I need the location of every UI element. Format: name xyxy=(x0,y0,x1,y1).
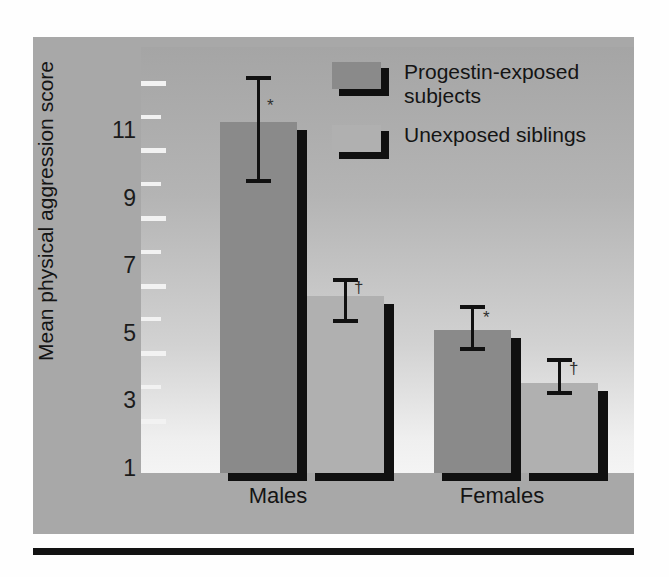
y-tick-1 xyxy=(141,419,166,424)
y-tick-label-5: 5 xyxy=(102,322,136,345)
legend-swatch-shadow-bottom xyxy=(339,152,389,159)
legend-swatch-unexposed xyxy=(332,125,381,152)
significance-marker-males-progestin: * xyxy=(267,97,274,114)
bar-females-unexposed[interactable] xyxy=(521,383,598,473)
bar-shadow-bottom xyxy=(529,473,608,481)
bottom-rule xyxy=(33,548,634,555)
y-tick-3 xyxy=(141,351,166,356)
x-tick-label-males: Males xyxy=(218,483,338,509)
errorbar-cap-bottom-females-unexposed xyxy=(547,391,572,395)
y-tick-label-1: 1 xyxy=(102,457,136,480)
legend-label-progestin: Progestin-exposed subjects xyxy=(404,60,622,107)
errorbar-males-progestin xyxy=(257,76,260,183)
errorbar-cap-top-females-progestin xyxy=(460,305,485,309)
y-tick-9 xyxy=(141,148,166,153)
x-tick-label-females: Females xyxy=(432,483,572,509)
bar-shadow-right xyxy=(297,130,307,481)
y-tick-2 xyxy=(141,385,161,389)
bar-shadow-bottom xyxy=(315,473,394,481)
bar-shadow-right xyxy=(511,338,521,481)
bar-shadow-right xyxy=(384,304,394,481)
legend-swatch-progestin xyxy=(332,62,381,89)
bar-females-progestin[interactable] xyxy=(434,330,511,473)
legend-swatch-shadow-bottom xyxy=(339,89,389,96)
errorbar-cap-bottom-females-progestin xyxy=(460,347,485,351)
y-tick-8 xyxy=(141,182,161,186)
y-axis-title: Mean physical aggression score xyxy=(34,61,64,361)
bar-shadow-right xyxy=(598,391,608,481)
bar-body xyxy=(434,330,511,473)
legend: Progestin-exposed subjects Unexposed sib… xyxy=(332,60,622,155)
legend-label-unexposed: Unexposed siblings xyxy=(404,123,622,147)
errorbar-cap-bottom-males-progestin xyxy=(246,179,271,183)
y-tick-7 xyxy=(141,216,166,221)
y-tick-label-11: 11 xyxy=(102,119,136,142)
y-tick-label-3: 3 xyxy=(102,389,136,412)
figure-root: Mean physical aggression score 11 9 7 5 … xyxy=(0,0,669,577)
significance-marker-males-unexposed: † xyxy=(354,279,363,296)
legend-item-progestin[interactable]: Progestin-exposed subjects xyxy=(332,60,622,107)
y-tick-label-9: 9 xyxy=(102,187,136,210)
y-axis-labels: 11 9 7 5 3 1 xyxy=(96,47,136,473)
significance-marker-females-progestin: * xyxy=(483,309,490,326)
significance-marker-females-unexposed: † xyxy=(569,360,578,377)
bar-body xyxy=(521,383,598,473)
y-tick-5 xyxy=(141,284,166,289)
bar-shadow-bottom xyxy=(228,473,307,481)
errorbar-cap-top-males-progestin xyxy=(246,76,271,80)
y-tick-6 xyxy=(141,250,161,254)
y-tick-4 xyxy=(141,317,161,321)
errorbar-males-unexposed xyxy=(344,278,347,323)
errorbar-females-unexposed xyxy=(558,358,561,395)
y-tick-10 xyxy=(141,115,161,119)
bar-shadow-bottom xyxy=(442,473,521,481)
legend-item-unexposed[interactable]: Unexposed siblings xyxy=(332,123,622,147)
y-tick-11 xyxy=(141,81,166,86)
y-tick-label-7: 7 xyxy=(102,254,136,277)
errorbar-cap-bottom-males-unexposed xyxy=(333,319,358,323)
errorbar-females-progestin xyxy=(471,305,474,351)
